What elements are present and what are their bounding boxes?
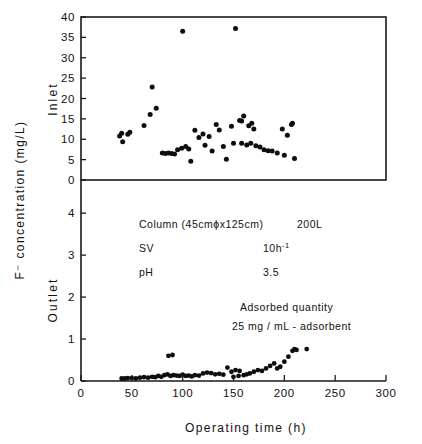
data-point (239, 118, 244, 123)
data-point (278, 364, 283, 369)
data-point (264, 366, 269, 371)
data-point (251, 127, 256, 132)
data-point (282, 153, 287, 158)
data-point (304, 347, 309, 352)
upper-y-ticklabel: 10 (61, 133, 75, 145)
data-point (213, 372, 218, 377)
data-point (120, 139, 125, 144)
figure-container: 0510152025303540 Inlet 01234 Outlet 0501… (0, 0, 422, 444)
data-point (237, 369, 242, 374)
x-ticklabel: 100 (172, 387, 193, 399)
data-point (201, 131, 206, 136)
data-point (170, 353, 175, 358)
panel-label-inlet: Inlet (46, 82, 60, 116)
data-point (172, 151, 177, 156)
data-point (239, 141, 244, 146)
x-axis-title: Operating time (h) (185, 421, 307, 435)
data-point (256, 368, 261, 373)
data-point (221, 372, 226, 377)
data-point (209, 371, 214, 376)
data-point (180, 29, 185, 34)
data-point (201, 371, 206, 376)
lower-y-ticklabel: 1 (68, 333, 75, 345)
data-point (285, 133, 290, 138)
data-point (188, 159, 193, 164)
upper-y-ticklabel: 20 (61, 93, 75, 105)
data-point (192, 373, 197, 378)
upper-y-ticklabel: 15 (61, 113, 75, 125)
y-axis-title: F⁻ concentration (mg/L) (13, 121, 27, 280)
data-point (282, 359, 287, 364)
data-point (142, 123, 147, 128)
data-point (119, 131, 124, 136)
data-point (214, 122, 219, 127)
lower-y-ticklabel: 4 (68, 207, 75, 219)
x-ticklabel: 150 (223, 387, 244, 399)
data-point (233, 26, 238, 31)
data-point (205, 370, 210, 375)
data-point (148, 112, 153, 117)
upper-y-ticklabel: 25 (61, 72, 75, 84)
upper-y-ticklabel: 5 (68, 154, 75, 166)
data-point (290, 121, 295, 126)
data-point (249, 121, 254, 126)
scatter-chart: 0510152025303540 Inlet 01234 Outlet 0501… (0, 0, 422, 444)
annotation-adsorbed-value: 25 mg / mL - adsorbent (232, 320, 351, 332)
data-point (138, 375, 143, 380)
upper-y-ticklabel: 40 (61, 11, 75, 23)
data-point (229, 124, 234, 129)
data-point (134, 376, 139, 381)
panel-label-outlet: Outlet (46, 277, 60, 322)
data-point (127, 130, 132, 135)
data-point (241, 114, 246, 119)
data-point (225, 365, 230, 370)
data-point (275, 151, 280, 156)
data-point (260, 369, 265, 374)
data-point (217, 371, 222, 376)
data-point (146, 375, 151, 380)
data-point (166, 353, 171, 358)
data-point (268, 364, 273, 369)
annotation-ph-value: 3.5 (263, 266, 279, 278)
data-point (217, 127, 222, 132)
data-point (257, 144, 262, 149)
data-point (221, 144, 226, 149)
x-ticklabel: 50 (125, 387, 139, 399)
data-point (142, 375, 147, 380)
x-ticklabel: 300 (376, 387, 397, 399)
upper-y-ticklabel: 35 (61, 31, 75, 43)
upper-y-ticklabel: 0 (68, 174, 75, 186)
data-point (186, 147, 191, 152)
lower-y-ticklabel: 3 (68, 249, 75, 261)
annotation-column-label: Column (45cmϕx125cm) (139, 218, 263, 230)
data-point (233, 368, 238, 373)
data-point (150, 85, 155, 90)
data-point (270, 149, 275, 154)
annotation-column-value: 200L (297, 218, 322, 230)
data-point (210, 149, 215, 154)
data-point (203, 143, 208, 148)
data-point (272, 361, 277, 366)
lower-y-ticklabel: 2 (68, 291, 75, 303)
x-ticklabel: 250 (325, 387, 346, 399)
data-point (248, 141, 253, 146)
data-point (231, 141, 236, 146)
x-ticklabel: 0 (78, 387, 85, 399)
upper-y-ticklabel: 30 (61, 52, 75, 64)
annotation-ph-label: pH (139, 266, 153, 278)
x-ticklabel: 200 (274, 387, 295, 399)
data-point (292, 156, 297, 161)
data-point (280, 127, 285, 132)
data-point (236, 374, 241, 379)
data-point (294, 348, 299, 353)
data-point (196, 135, 201, 140)
data-point (154, 106, 159, 111)
annotation-adsorbed-title: Adsorbed quantity (240, 301, 333, 313)
annotation-sv-label: SV (139, 242, 154, 254)
data-point (197, 373, 202, 378)
data-point (192, 128, 197, 133)
lower-y-ticklabel: 0 (68, 375, 75, 387)
data-point (224, 157, 229, 162)
data-point (286, 354, 291, 359)
data-point (207, 134, 212, 139)
